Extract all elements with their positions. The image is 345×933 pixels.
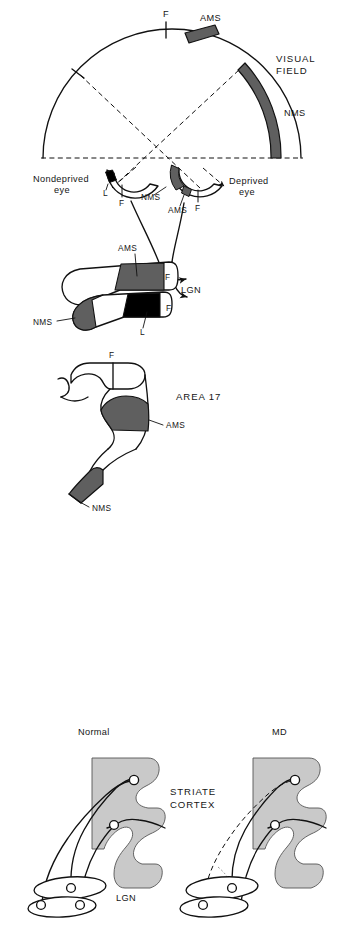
lgn-panel: AMS F L F NMS LGN: [33, 243, 201, 337]
figure-root: F AMS NMS VISUAL FIELD: [0, 0, 345, 933]
normal-subpanel: LGN: [28, 758, 166, 919]
area17-ams-leader: [149, 420, 163, 425]
nondeprived-eye-group: L F Nondeprived eye: [33, 170, 158, 208]
visual-field-label-line1: VISUAL: [276, 53, 316, 64]
md-terminal-mid-stem: [268, 827, 271, 828]
md-lgn-cell-a: [228, 884, 237, 893]
lgn-lower-l-patch: [123, 293, 160, 317]
area17-title: AREA 17: [176, 391, 221, 402]
deprived-eye-ams-patch: [182, 186, 192, 197]
nondeprived-eye-label-line1: Nondeprived: [33, 174, 89, 184]
striate-cortex-label-line2: CORTEX: [170, 799, 215, 810]
comparison-panel: Normal MD STRIATE CORTEX: [28, 727, 327, 919]
normal-terminal-mid: [110, 821, 119, 830]
lgn-l-label: L: [140, 327, 145, 337]
normal-terminal-upper: [129, 775, 138, 784]
nondeprived-eye-l-patch: [106, 170, 117, 183]
normal-terminal-mid-stem: [107, 827, 110, 828]
nondeprived-eye-f-label: F: [119, 198, 124, 208]
normal-panel-title: Normal: [78, 727, 110, 737]
area17-f-label: F: [109, 350, 114, 360]
normal-lgn-cell-c: [37, 901, 46, 910]
arc-nms-band: [238, 63, 281, 158]
deprived-eye-label-line1: Deprived: [229, 176, 269, 186]
deprived-eye-f-label: F: [195, 203, 200, 213]
between-eyes-nms-label: NMS: [141, 192, 161, 202]
md-lgn-cell-c: [199, 901, 208, 910]
lgn-nms-label: NMS: [33, 317, 53, 327]
lgn-lower-f-label: F: [166, 303, 171, 313]
striate-cortex-label-line1: STRIATE: [170, 786, 216, 797]
md-terminal-mid: [271, 821, 280, 830]
deprived-eye-nms-patch: [170, 165, 184, 190]
md-terminal-upper: [290, 775, 299, 784]
diagram-canvas: F AMS NMS VISUAL FIELD: [0, 0, 345, 933]
md-panel-title: MD: [272, 727, 287, 737]
normal-lgn-cell-a: [67, 884, 76, 893]
lgn-title: LGN: [181, 285, 201, 295]
deprived-eye-ams-label: AMS: [168, 205, 187, 215]
lgn-upper-f-label: F: [165, 272, 170, 282]
arc-ams-label: AMS: [200, 13, 221, 23]
lgn-ams-label: AMS: [118, 243, 137, 253]
area17-nms-label: NMS: [92, 503, 112, 513]
arc-ams-block: [185, 25, 219, 43]
normal-lgn-cell-b: [76, 901, 85, 910]
area17-panel: F AMS NMS AREA 17: [58, 350, 221, 513]
visual-field-label-line2: FIELD: [276, 65, 308, 76]
md-subpanel: [180, 758, 327, 919]
arc-fixation-label: F: [163, 9, 169, 19]
nondeprived-eye-label-line2: eye: [54, 185, 70, 195]
deprived-eye-label-line2: eye: [239, 187, 255, 197]
ray-right-eye-to-left-arc: [78, 73, 200, 188]
visual-field-panel: F AMS NMS VISUAL FIELD: [33, 9, 316, 215]
arc-nms-label: NMS: [284, 108, 305, 118]
area17-ams-label: AMS: [166, 420, 185, 430]
nondeprived-eye-l-label: L: [103, 188, 108, 198]
area17-left-tail-lower: [61, 397, 88, 401]
normal-lgn-label: LGN: [116, 893, 136, 903]
area17-left-tail: [58, 378, 69, 397]
area17-ams-wedge: [101, 396, 149, 431]
lgn-upper-ams-patch: [115, 263, 164, 290]
md-lgn-lower-ellipse: [180, 895, 249, 919]
area17-outline-upper: [71, 363, 145, 389]
ray-arrow-right: [203, 168, 224, 186]
